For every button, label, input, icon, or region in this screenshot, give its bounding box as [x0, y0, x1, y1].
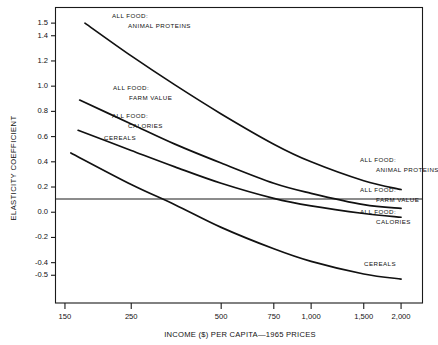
curve-all-food-animal-proteins — [85, 23, 401, 189]
ann-left-calories: ALL FOOD:CALORIES — [112, 112, 163, 129]
x-axis-tick-labels: 1502505007501,0001,5002,000 — [59, 312, 411, 321]
ann-right-animal-proteins: ALL FOOD:ANIMAL PROTEINS — [360, 156, 438, 173]
ann-right-animal-proteins-line1: ALL FOOD: — [360, 156, 396, 163]
ann-right-animal-proteins-line2: ANIMAL PROTEINS — [376, 166, 438, 173]
y-axis-tick-labels: 1.51.41.21.00.80.60.40.20.0-0.2-0.4-0.5 — [35, 18, 48, 279]
y-axis-title: ELASTICITY COEFFICIENT — [9, 116, 18, 221]
y-tick-label: 0.2 — [37, 182, 48, 191]
y-tick-label: 0.4 — [37, 157, 48, 166]
ann-right-calories-line2: CALORIES — [376, 218, 411, 225]
chart-canvas: 1.51.41.21.00.80.60.40.20.0-0.2-0.4-0.5 … — [0, 0, 438, 345]
ann-left-farm-value-line2: FARM VALUE — [129, 94, 172, 101]
y-tick-label: 1.4 — [37, 31, 48, 40]
x-axis-ticks — [65, 303, 401, 309]
ann-right-calories-line1: ALL FOOD: — [360, 208, 396, 215]
ann-right-farm-value-line2: FARM VALUE — [376, 196, 419, 203]
x-tick-label: 150 — [59, 312, 72, 321]
ann-right-farm-value-line1: ALL FOOD: — [360, 186, 396, 193]
x-tick-label: 250 — [125, 312, 138, 321]
ann-left-animal-proteins-line2: ANIMAL PROTEINS — [128, 22, 191, 29]
ann-left-cereals-line1: CEREALS — [104, 134, 136, 141]
y-tick-label: 1.5 — [37, 18, 48, 27]
x-tick-label: 750 — [267, 312, 280, 321]
ann-right-cereals: CEREALS — [364, 260, 396, 267]
ann-left-calories-line1: ALL FOOD: — [112, 112, 148, 119]
y-tick-label: -0.2 — [35, 232, 48, 241]
elasticity-chart: 1.51.41.21.00.80.60.40.20.0-0.2-0.4-0.5 … — [0, 0, 438, 345]
y-tick-label: 0.8 — [37, 106, 48, 115]
ann-right-farm-value: ALL FOOD:FARM VALUE — [360, 186, 419, 203]
y-tick-label: 1.2 — [37, 56, 48, 65]
x-tick-label: 1,500 — [354, 312, 373, 321]
ann-left-farm-value: ALL FOOD:FARM VALUE — [113, 84, 172, 101]
x-tick-label: 1,000 — [302, 312, 321, 321]
data-curves — [71, 23, 401, 279]
ann-left-farm-value-line1: ALL FOOD: — [113, 84, 149, 91]
series-annotations: ALL FOOD:ANIMAL PROTEINSALL FOOD:FARM VA… — [104, 12, 438, 267]
ann-left-cereals: CEREALS — [104, 134, 136, 141]
curve-cereals — [71, 153, 401, 279]
ann-left-calories-line2: CALORIES — [128, 122, 163, 129]
ann-left-animal-proteins-line1: ALL FOOD: — [112, 12, 148, 19]
x-tick-label: 2,000 — [392, 312, 411, 321]
y-tick-label: 1.0 — [37, 81, 48, 90]
x-tick-label: 500 — [215, 312, 228, 321]
x-axis-title: INCOME ($) PER CAPITA—1965 PRICES — [164, 330, 316, 339]
ann-right-cereals-line1: CEREALS — [364, 260, 396, 267]
y-tick-label: -0.5 — [35, 270, 48, 279]
curve-all-food-calories — [78, 130, 401, 217]
y-tick-label: 0.6 — [37, 132, 48, 141]
y-tick-label: 0.0 — [37, 207, 48, 216]
y-tick-label: -0.4 — [35, 258, 48, 267]
ann-left-animal-proteins: ALL FOOD:ANIMAL PROTEINS — [112, 12, 191, 29]
